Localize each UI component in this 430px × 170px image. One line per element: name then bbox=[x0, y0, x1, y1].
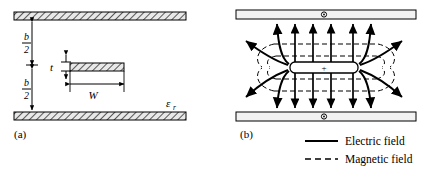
epsilon-symbol: ε bbox=[166, 97, 171, 109]
w-label: W bbox=[88, 89, 98, 101]
figure-root: b 2 b 2 t bbox=[0, 0, 430, 170]
center-strip-conductor bbox=[70, 63, 124, 71]
b-lower-denominator: 2 bbox=[24, 90, 29, 101]
bottom-ground-plane bbox=[14, 112, 186, 120]
top-plate-current-dot-icon bbox=[323, 14, 325, 16]
epsilon-subscript: r bbox=[173, 103, 176, 112]
top-ground-plane bbox=[14, 12, 186, 20]
b-upper-numerator: b bbox=[24, 31, 29, 42]
b-lower-numerator: b bbox=[24, 77, 29, 88]
center-strip-polarity-label: + bbox=[321, 63, 326, 73]
panel-b-tag: (b) bbox=[240, 128, 253, 141]
stripline-figure: b 2 b 2 t bbox=[0, 0, 430, 170]
bottom-plate-current-dot-icon bbox=[323, 116, 325, 118]
legend-label-electric-field: Electric field bbox=[345, 135, 405, 147]
legend-label-magnetic-field: Magnetic field bbox=[345, 153, 413, 166]
b-upper-denominator: 2 bbox=[24, 44, 29, 55]
panel-a-tag: (a) bbox=[14, 128, 27, 141]
